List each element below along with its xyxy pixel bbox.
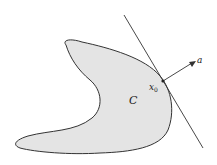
point-x0-dot xyxy=(161,79,164,82)
label-a: a xyxy=(197,55,202,65)
normal-vector-arrow xyxy=(163,63,192,81)
set-c-region xyxy=(16,40,172,154)
label-c: C xyxy=(129,94,138,107)
diagram-canvas: a x0 C xyxy=(0,0,217,165)
